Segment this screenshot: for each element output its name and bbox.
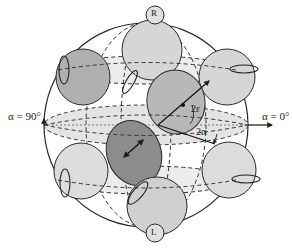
angle-label-ellipticity: 2ε xyxy=(191,103,200,114)
pole-label-south: L xyxy=(151,227,157,237)
disc-lower-right xyxy=(202,142,256,198)
sphere-center-point xyxy=(181,103,185,107)
disc-upper-right xyxy=(199,49,255,105)
pole-label-north: R xyxy=(151,8,157,18)
axis-label-left: α = 90° xyxy=(8,110,41,122)
disc-upper-left xyxy=(56,49,110,105)
angle-label-azimuth: 2α xyxy=(196,126,206,137)
poincare-sphere-diagram xyxy=(0,0,293,249)
axis-label-right: α = 0° xyxy=(262,110,289,122)
